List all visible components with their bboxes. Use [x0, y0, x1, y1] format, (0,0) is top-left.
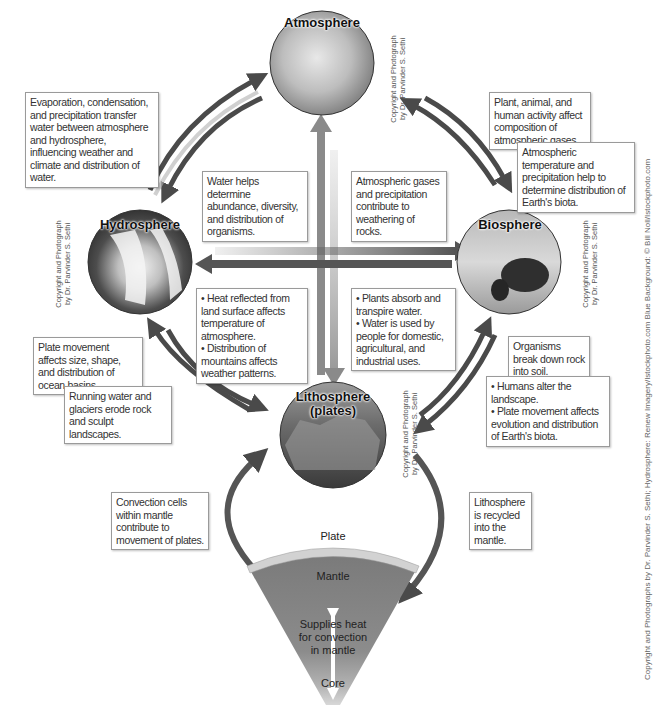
callout-text: Organisms break down rock into soil. [513, 340, 585, 378]
hydrosphere-label: Hydrosphere [95, 218, 185, 232]
callout-bio-litho: Organisms break down rock into soil. [508, 336, 590, 382]
heat-label-line: in mantle [311, 644, 356, 656]
lithosphere-canyon [285, 415, 380, 470]
callout-text: Atmospheric gases and precipitation cont… [356, 175, 442, 238]
callout-text: • Distribution of mountains affects weat… [201, 342, 303, 380]
credit-line: by Dr. Parvinder S. Sethi [410, 393, 419, 475]
lithosphere-label: Lithosphere (plates) [288, 390, 378, 418]
bison-head [491, 279, 509, 301]
atmosphere-label: Atmosphere [282, 16, 362, 30]
core-label: Core [303, 677, 363, 690]
callout-atmo-litho: Atmospheric gases and precipitation cont… [351, 171, 447, 242]
callout-text: • Plants absorb and transpire water. [356, 292, 451, 317]
hydrosphere-credit: Copyright and Photograph by Dr. Parvinde… [54, 219, 72, 309]
callout-text: Evaporation, condensation, and precipita… [30, 96, 154, 184]
plate-label: Plate [303, 530, 363, 543]
callout-text: Convection cells within mantle contribut… [116, 496, 204, 546]
callout-text: Water helps determine abundance, diversi… [207, 175, 303, 238]
callout-text: • Plate movement affects evolution and d… [491, 405, 605, 443]
callout-litho-atmo: • Heat reflected from land surface affec… [196, 288, 308, 384]
credit-line: Copyright and Photograph [581, 220, 590, 308]
callout-text: • Heat reflected from land surface affec… [201, 292, 303, 342]
callout-text: Lithosphere is recycled into the mantle. [474, 496, 527, 546]
credit-line: Copyright and Photograph [401, 390, 410, 478]
lithosphere-label-line1: Lithosphere [296, 389, 370, 404]
callout-hydro-bio: Water helps determine abundance, diversi… [202, 171, 308, 242]
callout-text: Plant, animal, and human activity affect… [494, 96, 586, 146]
callout-mantle-litho: Convection cells within mantle contribut… [111, 492, 209, 550]
callout-hydro-litho: Running water and glaciers erode rock an… [64, 386, 172, 444]
callout-bio-hydro: • Plants absorb and transpire water. • W… [351, 288, 456, 371]
atmosphere-credit: Copyright and Photograph by Dr. Parvinde… [389, 34, 407, 124]
heat-label-line: Supplies heat [300, 618, 367, 630]
biosphere-credit: Copyright and Photograph by Dr. Parvinde… [581, 219, 599, 309]
credit-line: by Dr. Parvinder S. Sethi [63, 223, 72, 305]
callout-atmo-bio: Atmospheric temperature and precipitatio… [517, 142, 635, 213]
callout-atmo-hydro: Evaporation, condensation, and precipita… [25, 92, 159, 188]
callout-text: • Humans alter the landscape. [491, 380, 605, 405]
credit-line: by Dr. Parvinder S. Sethi [590, 223, 599, 305]
biosphere-label: Biosphere [465, 218, 555, 232]
lithosphere-label-line2: (plates) [310, 403, 356, 418]
credit-line: by Dr. Parvinder S. Sethi [398, 38, 407, 120]
arrow-litho-to-atmo-head [310, 114, 332, 132]
credit-line: Copyright and Photograph [54, 220, 63, 308]
arrow-hydro-to-bio-shaft [215, 247, 455, 255]
mantle-label: Mantle [303, 570, 363, 583]
heat-label: Supplies heat for convection in mantle [283, 618, 383, 657]
callout-litho-bio: • Humans alter the landscape. • Plate mo… [486, 376, 610, 447]
arrow-bio-to-hydro-shaft [212, 260, 452, 268]
callout-text: Plate movement affects size, shape, and … [38, 341, 138, 391]
heat-label-line: for convection [299, 631, 367, 643]
callout-text: Running water and glaciers erode rock an… [69, 390, 167, 440]
arrow-bio-to-hydro-head [195, 254, 212, 274]
callout-text: Atmospheric temperature and precipitatio… [522, 146, 630, 209]
lithosphere-credit: Copyright and Photograph by Dr. Parvinde… [401, 389, 419, 479]
credit-line: Copyright and Photograph [389, 35, 398, 123]
callout-litho-mantle: Lithosphere is recycled into the mantle. [469, 492, 532, 550]
callout-text: • Water is used by people for domestic, … [356, 317, 451, 367]
side-credit: Copyright and Photographs by Dr. Parvind… [643, 159, 652, 680]
arrow-mantle-to-litho [228, 460, 256, 570]
